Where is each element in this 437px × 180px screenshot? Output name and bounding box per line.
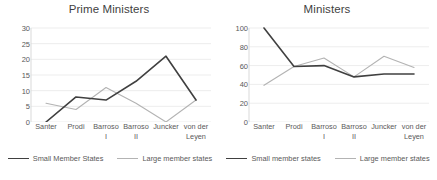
- legend-item[interactable]: Large member states: [117, 154, 212, 163]
- legend-label: Large member states: [360, 154, 430, 163]
- x-axis-tick-label: BarrosoI: [91, 122, 121, 148]
- legend-item[interactable]: Large member states: [335, 154, 430, 163]
- x-axis-tick-label: Santer: [249, 122, 279, 148]
- legend-item[interactable]: Small member states: [226, 154, 320, 163]
- legend-swatch-icon: [8, 158, 29, 159]
- legend-swatch-icon: [335, 158, 356, 159]
- chart-panel-prime-ministers: Prime Ministers 051015202530 SanterProdi…: [0, 0, 218, 180]
- x-axis-tick-label: BarrosoII: [339, 122, 369, 148]
- line-plot-svg: [218, 22, 436, 122]
- legend-label: Small member states: [251, 154, 320, 163]
- legend-label: Large member states: [142, 154, 212, 163]
- plot-area-prime-ministers: [0, 22, 218, 122]
- series-line: [46, 88, 196, 122]
- x-axis-labels-ministers: SanterProdiBarrosoIBarrosoIIJunckervon d…: [249, 122, 429, 148]
- chart-title: Prime Ministers: [0, 3, 218, 15]
- series-line: [264, 28, 414, 77]
- x-axis-tick-label: Juncker: [369, 122, 399, 148]
- chart-title: Ministers: [218, 3, 436, 15]
- legend-ministers: Small member statesLarge member states: [232, 149, 424, 167]
- x-axis-tick-label: BarrosoI: [309, 122, 339, 148]
- x-axis-tick-label: Prodi: [279, 122, 309, 148]
- x-axis-tick-label: Santer: [31, 122, 61, 148]
- x-axis-tick-label: von derLeyen: [181, 122, 211, 148]
- line-plot-svg: [0, 22, 218, 122]
- chart-panel-ministers: Ministers 020406080100 SanterProdiBarros…: [218, 0, 436, 180]
- legend-item[interactable]: Small Member States: [8, 154, 104, 163]
- legend-prime-ministers: Small Member StatesLarge member states: [14, 149, 206, 167]
- legend-swatch-icon: [226, 158, 247, 159]
- legend-label: Small Member States: [33, 154, 104, 163]
- plot-area-ministers: [218, 22, 436, 122]
- x-axis-tick-label: Juncker: [151, 122, 181, 148]
- x-axis-tick-label: von derLeyen: [399, 122, 429, 148]
- legend-swatch-icon: [117, 158, 138, 159]
- x-axis-labels-prime-ministers: SanterProdiBarrosoIBarrosoIIJunckervon d…: [31, 122, 211, 148]
- x-axis-tick-label: Prodi: [61, 122, 91, 148]
- x-axis-tick-label: BarrosoII: [121, 122, 151, 148]
- dual-line-chart-figure: Prime Ministers 051015202530 SanterProdi…: [0, 0, 437, 180]
- series-line: [46, 56, 196, 122]
